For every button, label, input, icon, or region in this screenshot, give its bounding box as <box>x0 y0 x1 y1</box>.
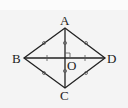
label-d: D <box>107 51 116 66</box>
label-a: A <box>60 13 70 28</box>
label-b: B <box>12 51 21 66</box>
label-o: O <box>67 58 76 73</box>
label-c: C <box>60 88 69 103</box>
rhombus-diagram: A B C D O <box>0 0 128 108</box>
